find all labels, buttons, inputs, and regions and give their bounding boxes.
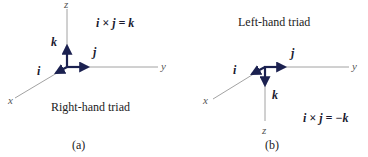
- i-vector-label: i: [233, 63, 237, 77]
- panel-b-left-hand-triad: y x z j i k i × j = −k Left-hand triad (…: [202, 15, 357, 152]
- panel-caption: (a): [72, 138, 85, 152]
- triad-title: Right-hand triad: [51, 100, 130, 114]
- cross-product-equation: i × j = k: [96, 16, 134, 30]
- i-vector-label: i: [37, 64, 41, 78]
- y-axis-label: y: [351, 60, 357, 72]
- panel-caption: (b): [265, 138, 279, 152]
- z-axis-label: z: [261, 124, 267, 136]
- j-vector-label: j: [289, 46, 295, 60]
- x-axis-label: x: [202, 94, 208, 106]
- panel-a-right-hand-triad: z y x k j i i × j = k Right-hand triad (…: [7, 0, 166, 152]
- z-axis-label: z: [63, 0, 69, 10]
- i-vector-arrow-icon: [252, 67, 265, 74]
- k-vector-label: k: [51, 35, 57, 49]
- triads-diagram: z y x k j i i × j = k Right-hand triad (…: [0, 0, 368, 157]
- k-vector-label: k: [272, 88, 278, 102]
- triad-title: Left-hand triad: [238, 15, 310, 29]
- j-vector-label: j: [91, 45, 97, 59]
- i-vector-arrow-icon: [56, 67, 67, 73]
- y-axis-label: y: [160, 60, 166, 72]
- cross-product-equation: i × j = −k: [303, 111, 349, 125]
- x-axis-label: x: [7, 94, 13, 106]
